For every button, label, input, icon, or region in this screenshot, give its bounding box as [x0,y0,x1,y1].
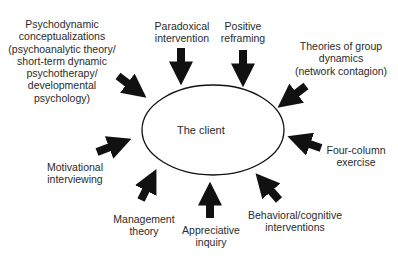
label-line: Paradoxical [151,20,213,32]
label-line: exercise [324,156,388,168]
label-motivational: Motivational interviewing [44,161,106,186]
label-fourcol: Four-column exercise [324,144,388,169]
label-line: intervention [151,32,213,44]
label-line: (network contagion) [293,65,389,77]
arrow-management [141,182,150,200]
label-line: short-term dynamic [3,55,121,67]
arrow-motivational [97,144,118,152]
label-management: Management theory [112,213,176,238]
label-line: Positive [217,20,269,32]
label-line: Four-column [324,144,388,156]
label-appreciative: Appreciative inquiry [178,224,244,249]
label-psychodynamic: Psychodynamic conceptualizations (psycho… [3,18,121,104]
label-line: Management [112,213,176,225]
arrow-fourcol [301,141,321,148]
label-line: dynamics [293,52,389,64]
arrow-behavioral [265,184,279,200]
label-line: interviewing [44,173,106,185]
label-line: psychotherapy/ [3,67,121,79]
label-line: (psychoanalytic theory/ [3,43,121,55]
label-line: developmental [3,79,121,91]
label-line: reframing [217,32,269,44]
label-paradoxical: Paradoxical intervention [151,20,213,45]
label-line: Theories of group [293,40,389,52]
label-line: interventions [240,221,350,233]
label-group: Theories of group dynamics (network cont… [293,40,389,77]
label-line: conceptualizations [3,30,121,42]
label-line: Motivational [44,161,106,173]
label-line: inquiry [178,236,244,248]
label-line: Psychodynamic [3,18,121,30]
label-behavioral: Behavioral/cognitive interventions [240,209,350,234]
label-line: Appreciative [178,224,244,236]
arrow-group [289,86,306,99]
label-positive: Positive reframing [217,20,269,45]
label-line: psychology) [3,92,121,104]
label-line: theory [112,225,176,237]
center-label: The client [177,124,225,136]
label-line: Behavioral/cognitive [240,209,350,221]
